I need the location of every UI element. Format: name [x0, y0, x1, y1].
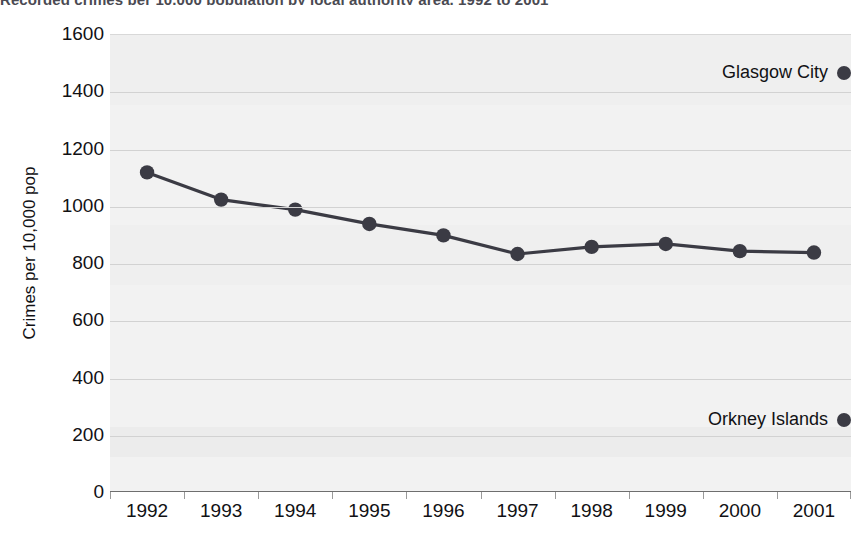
x-axis-line: [110, 491, 851, 492]
gridline: [110, 436, 851, 437]
legend-marker-circle-icon: [837, 413, 851, 427]
y-axis-tick-label: 1200: [38, 139, 104, 158]
data-point-marker[interactable]: [584, 240, 598, 254]
x-axis-tick-label: 1996: [422, 500, 464, 522]
chart-page: Recorded crimes per 10,000 population by…: [0, 0, 863, 538]
data-point-marker[interactable]: [362, 217, 376, 231]
legend-item-glasgow-city[interactable]: Glasgow City: [722, 62, 851, 83]
data-point-marker[interactable]: [733, 244, 747, 258]
x-axis-tick-label: 2000: [719, 500, 761, 522]
y-axis-tick-label: 800: [38, 253, 104, 272]
y-axis-tick-label: 400: [38, 368, 104, 387]
y-axis-tick-label: 1000: [38, 196, 104, 215]
y-axis-tick-label: 1400: [38, 81, 104, 100]
data-point-marker[interactable]: [510, 247, 524, 261]
x-axis-tick-mark: [629, 492, 630, 499]
x-axis-tick-mark: [258, 492, 259, 499]
x-axis-tick-mark: [555, 492, 556, 499]
x-axis-tick-label: 1999: [645, 500, 687, 522]
y-axis-tick-label: 600: [38, 310, 104, 329]
x-axis-tick-label: 1994: [274, 500, 316, 522]
data-point-marker[interactable]: [807, 245, 821, 259]
x-axis-tick-label: 1995: [348, 500, 390, 522]
legend-item-orkney-islands[interactable]: Orkney Islands: [708, 409, 851, 430]
gridline: [110, 264, 851, 265]
x-axis-tick-label: 1993: [200, 500, 242, 522]
gridline: [110, 207, 851, 208]
gridline: [110, 379, 851, 380]
legend-label-glasgow-city: Glasgow City: [722, 62, 828, 83]
x-axis-tick-mark: [406, 492, 407, 499]
y-axis-tick-label: 1600: [38, 24, 104, 43]
y-axis-tick-label: 200: [38, 425, 104, 444]
y-axis-tick-labels: 16001400120010008006004002000: [26, 0, 104, 538]
x-axis-tick-mark: [110, 492, 111, 499]
x-axis-tick-label: 1997: [496, 500, 538, 522]
data-point-marker[interactable]: [214, 192, 228, 206]
gridline: [110, 92, 851, 93]
legend-label-orkney-islands: Orkney Islands: [708, 409, 828, 430]
x-axis-tick-mark: [184, 492, 185, 499]
x-axis-tick-label: 1998: [571, 500, 613, 522]
y-axis-tick-label: 0: [38, 482, 104, 501]
gridline: [110, 321, 851, 322]
series-line-glasgow-city: [147, 172, 814, 254]
x-axis-tick-mark: [332, 492, 333, 499]
data-point-marker[interactable]: [659, 237, 673, 251]
data-point-marker[interactable]: [288, 202, 302, 216]
legend-marker-circle-icon: [837, 66, 851, 80]
x-axis-tick-label: 2001: [793, 500, 835, 522]
x-axis-tick-mark: [777, 492, 778, 499]
x-axis-tick-mark: [703, 492, 704, 499]
data-point-marker[interactable]: [140, 165, 154, 179]
x-axis-tick-mark: [481, 492, 482, 499]
x-axis-tick-labels: 1992199319941995199619971998199920002001: [110, 500, 851, 532]
x-axis-tick-label: 1992: [126, 500, 168, 522]
x-axis-tick-mark: [850, 492, 851, 499]
gridline: [110, 150, 851, 151]
chart-title: Recorded crimes per 10,000 population by…: [0, 0, 863, 5]
data-point-marker[interactable]: [436, 228, 450, 242]
